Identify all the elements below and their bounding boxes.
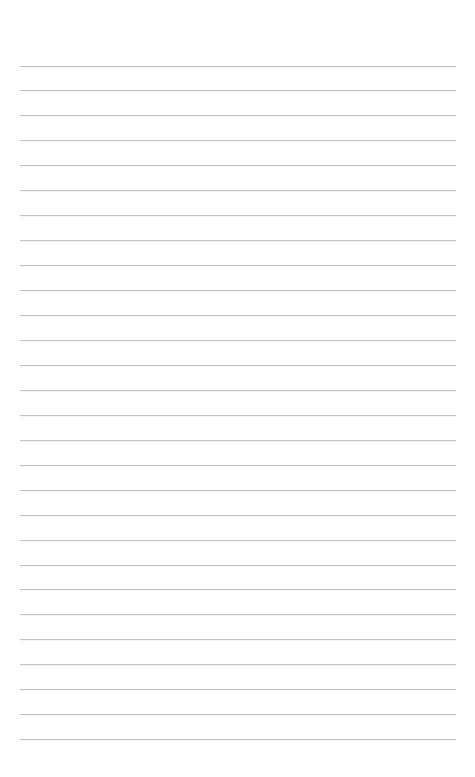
ruled-line xyxy=(20,689,456,690)
ruled-line xyxy=(20,639,456,640)
ruled-line xyxy=(20,340,456,341)
ruled-line xyxy=(20,190,456,191)
ruled-line xyxy=(20,614,456,615)
ruled-line xyxy=(20,265,456,266)
ruled-line xyxy=(20,390,456,391)
ruled-line xyxy=(20,565,456,566)
ruled-line xyxy=(20,290,456,291)
ruled-line xyxy=(20,664,456,665)
ruled-line xyxy=(20,140,456,141)
ruled-line xyxy=(20,215,456,216)
ruled-line xyxy=(20,490,456,491)
ruled-line xyxy=(20,315,456,316)
ruled-line xyxy=(20,66,456,67)
ruled-line xyxy=(20,714,456,715)
ruled-line xyxy=(20,465,456,466)
ruled-line xyxy=(20,540,456,541)
ruled-line xyxy=(20,115,456,116)
ruled-line xyxy=(20,415,456,416)
lined-paper-sheet xyxy=(0,0,475,777)
ruled-line xyxy=(20,440,456,441)
ruled-line xyxy=(20,739,456,740)
ruled-line xyxy=(20,240,456,241)
ruled-line xyxy=(20,515,456,516)
ruled-line xyxy=(20,589,456,590)
ruled-line xyxy=(20,165,456,166)
ruled-line xyxy=(20,365,456,366)
ruled-line xyxy=(20,90,456,91)
